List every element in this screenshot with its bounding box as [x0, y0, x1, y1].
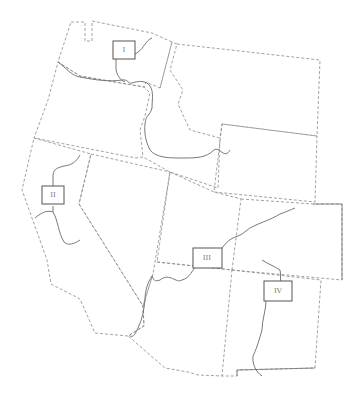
- region-label-I: I: [113, 41, 135, 59]
- border-wyoming: [214, 124, 317, 202]
- rivers: [35, 38, 295, 376]
- border-nevada: [79, 154, 170, 306]
- region-label-IV: IV: [264, 281, 292, 301]
- outline-colorado-east: [313, 204, 342, 280]
- river-san-joaquin: [35, 206, 80, 244]
- label-text-III: III: [203, 254, 212, 262]
- region-label-III: III: [193, 248, 222, 268]
- label-text-IV: IV: [274, 287, 283, 295]
- region-label-II: II: [42, 186, 64, 204]
- river-rio-grande: [253, 301, 266, 376]
- border-california: [22, 138, 144, 336]
- state-borders: [22, 21, 342, 376]
- western-states-map: I II III IV: [0, 0, 359, 398]
- border-oregon: [34, 62, 150, 158]
- river-sacramento: [53, 155, 80, 188]
- label-text-I: I: [123, 46, 126, 54]
- border-arizona: [128, 262, 232, 376]
- river-rio-grande-upper: [262, 260, 281, 282]
- border-idaho: [143, 42, 220, 188]
- label-text-II: II: [50, 191, 56, 199]
- river-colorado-upper: [222, 208, 295, 248]
- river-colorado: [130, 265, 197, 336]
- border-montana: [177, 44, 320, 138]
- outline-new-mexico-south: [237, 368, 315, 376]
- river-columbia-north: [134, 38, 152, 55]
